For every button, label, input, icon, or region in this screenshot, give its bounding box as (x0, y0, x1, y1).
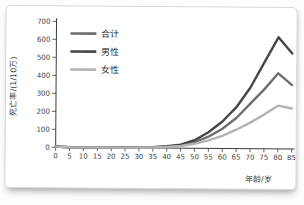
y-tick-label: 500 (37, 54, 50, 62)
x-tick-label: 10 (79, 152, 88, 160)
x-tick-label: 60 (218, 153, 227, 161)
x-tick-label: 50 (190, 153, 199, 161)
series-line-total (56, 72, 293, 149)
mortality-line-chart: 死亡率/(1/10万) 年龄/岁 01002003004005006007000… (5, 6, 296, 189)
x-tick-label: 45 (176, 153, 185, 161)
x-tick-label: 40 (162, 153, 171, 161)
y-tick-label: 0 (45, 144, 50, 152)
y-tick-label: 100 (36, 126, 49, 134)
y-tick-label: 200 (36, 108, 49, 116)
x-tick-label: 80 (273, 154, 282, 162)
x-tick-label: 65 (232, 154, 241, 162)
legend-label-female: 女性 (101, 64, 119, 75)
y-tick-label: 700 (37, 18, 50, 26)
x-axis-title: 年龄/岁 (245, 174, 272, 184)
chart-frame: 死亡率/(1/10万) 年龄/岁 01002003004005006007000… (4, 5, 297, 190)
x-tick-label: 25 (121, 153, 130, 161)
y-tick-label: 400 (37, 72, 50, 80)
y-tick-label: 600 (37, 36, 50, 44)
x-tick-label: 35 (148, 153, 157, 161)
x-tick-label: 75 (259, 154, 268, 162)
y-axis-title: 死亡率/(1/10万) (8, 57, 18, 116)
x-tick-label: 0 (53, 152, 58, 160)
x-tick-label: 55 (204, 153, 213, 161)
x-tick-label: 85 (287, 154, 296, 162)
x-tick-label: 20 (107, 153, 116, 161)
x-tick-label: 15 (93, 153, 102, 161)
y-tick-label: 300 (37, 90, 50, 98)
series-line-female (56, 104, 292, 149)
x-tick-label: 30 (134, 153, 143, 161)
legend-label-total: 合计 (101, 28, 119, 39)
y-axis-line (56, 18, 57, 147)
x-tick-label: 5 (67, 152, 72, 160)
x-tick-label: 70 (245, 154, 254, 162)
legend-label-male: 男性 (101, 46, 119, 57)
screenshot-root: 死亡率/(1/10万) 年龄/岁 01002003004005006007000… (0, 0, 304, 205)
